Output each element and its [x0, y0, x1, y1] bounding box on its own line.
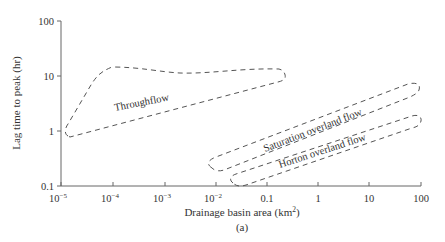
x-ticks: 10−5 10−4 10−3 10−2 0.1 1 10 100	[49, 182, 429, 204]
throughflow-region	[65, 67, 285, 137]
chart-canvas: 100 10 1 0.1 10−5 10−4 10−3 10−2 0.1 1 1…	[0, 0, 445, 242]
throughflow-label: Throughflow	[113, 92, 170, 113]
x-tick-label: 10−2	[204, 192, 222, 204]
x-tick-label: 0.1	[260, 193, 273, 204]
x-tick-label: 1	[315, 193, 320, 204]
x-tick-label: 10	[364, 193, 375, 204]
x-tick-label: 10−5	[49, 192, 67, 204]
figure-caption: (a)	[236, 221, 249, 234]
y-tick-label: 10	[44, 71, 55, 82]
x-tick-label: 10−4	[101, 192, 119, 204]
y-tick-label: 100	[38, 16, 54, 27]
y-tick-label: 0.1	[41, 181, 54, 192]
x-tick-label: 100	[413, 193, 429, 204]
y-axis-title: Lag time to peak (hr)	[10, 56, 23, 150]
x-axis-title: Drainage basin area (km2)	[184, 205, 300, 219]
y-ticks: 100 10 1 0.1	[38, 16, 61, 192]
y-tick-label: 1	[49, 126, 54, 137]
x-tick-label: 10−3	[153, 192, 171, 204]
